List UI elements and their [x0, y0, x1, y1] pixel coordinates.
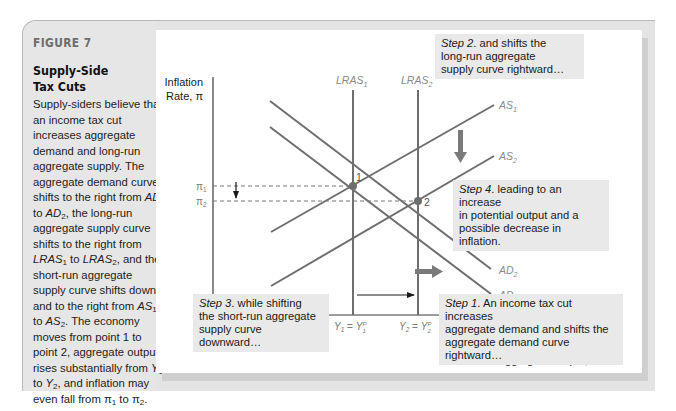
y1-tick: Y1 = YP1	[334, 321, 366, 334]
figure-title-line1: Supply-Side	[33, 63, 153, 79]
caption-text: Supply-siders believe that an income tax…	[33, 98, 162, 203]
equilibrium-point-1	[349, 182, 357, 190]
step-2-note: Step 2. and shifts the long-run aggregat…	[435, 34, 584, 79]
step-label: Step 3	[199, 297, 231, 309]
step-1-note: Step 1. An income tax cut increases aggr…	[439, 294, 623, 365]
figure-title-line2: Tax Cuts	[33, 79, 153, 95]
as1-label: AS1	[498, 99, 517, 113]
lras2-label: LRAS2	[401, 74, 432, 88]
note-text: long-run aggregate	[441, 50, 536, 62]
figure-title: Supply-Side Tax Cuts	[33, 63, 153, 95]
caption-text: to	[116, 393, 132, 405]
chart-panel: Inflation Rate, π Aggregate Output, Y LR…	[156, 30, 642, 373]
pi2-tick: π2	[196, 196, 207, 208]
note-text: the short-run aggregate	[199, 310, 316, 322]
caption-lras1: LRAS	[33, 253, 63, 265]
ad-shift-right-arrow-icon	[415, 265, 443, 278]
caption-text: to	[33, 377, 46, 389]
step-label: Step 2	[441, 37, 473, 49]
equilibrium-point-2	[414, 197, 422, 205]
y-axis-label-line2: Rate, π	[166, 90, 203, 102]
caption-text: to	[33, 315, 46, 327]
note-text: . while shifting	[231, 297, 301, 309]
lras1-label: LRAS1	[336, 74, 367, 88]
note-text: in potential output and a	[459, 209, 578, 221]
caption-as2: AS	[46, 315, 61, 327]
ad2-label: AD2	[498, 264, 518, 278]
caption-sidebar: FIGURE 7 Supply-Side Tax Cuts Supply-sid…	[23, 21, 156, 391]
point-1-label: 1	[356, 171, 362, 183]
figure-label: FIGURE 7	[33, 35, 92, 50]
step-4-note: Step 4. leading to an increase in potent…	[453, 180, 609, 251]
caption-pi1: π	[104, 393, 112, 405]
note-text: possible decrease in inflation.	[459, 222, 561, 247]
caption-text: to	[33, 207, 46, 219]
step-label: Step 1	[445, 297, 477, 309]
y-axis-label-line1: Inflation	[164, 76, 203, 88]
y2-tick: Y2 = YP2	[399, 321, 431, 334]
as-shift-down-arrow-icon	[454, 130, 467, 163]
caption-text: to	[67, 253, 83, 265]
figure-caption: Supply-siders believe that an income tax…	[33, 97, 165, 407]
pi1-tick: π1	[196, 181, 207, 193]
caption-lras2: LRAS	[83, 253, 113, 265]
caption-pi2: π	[132, 393, 140, 405]
note-text: supply curve downward…	[199, 323, 262, 348]
point-2-label: 2	[424, 196, 430, 208]
note-text: aggregate demand and shifts the	[445, 323, 609, 335]
note-text: . and shifts the	[473, 37, 546, 49]
step-label: Step 4	[459, 183, 491, 195]
caption-as1: AS	[137, 300, 152, 312]
caption-text: .	[144, 393, 147, 405]
caption-ad2: AD	[46, 207, 62, 219]
as2-label: AS2	[498, 150, 517, 164]
caption-y2: Y	[46, 377, 54, 389]
note-text: supply curve rightward…	[441, 63, 564, 75]
step-3-note: Step 3. while shifting the short-run agg…	[193, 294, 329, 352]
note-text: aggregate demand curve rightward…	[445, 336, 569, 361]
